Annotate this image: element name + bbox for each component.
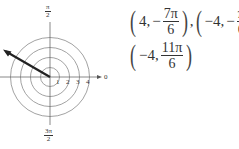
point-3: ( −4, 11π6 ) [128, 40, 194, 71]
point-1: ( 4, − 7π6 ) [128, 6, 190, 37]
answer-line-2: ( −4, 11π6 ) [128, 38, 239, 72]
ring-label-4: 4 [86, 79, 90, 86]
point-arrow [3, 50, 50, 78]
ring-label-1: 1 [56, 79, 60, 86]
angle-label-0: 0 [104, 74, 108, 81]
answer-line-1: ( 4, − 7π6 ) , ( −4, − π6 ) , [128, 4, 239, 38]
ring-label-2: 2 [66, 79, 70, 86]
arrowhead-icon [3, 50, 12, 57]
answer-text: ( 4, − 7π6 ) , ( −4, − π6 ) , ( −4, 11π6… [128, 4, 239, 72]
angle-label-pi-over-2: π2 [45, 4, 51, 19]
polar-grid [0, 0, 120, 149]
axis-arrowhead-icon [97, 75, 102, 79]
ring-label-3: 3 [76, 79, 80, 86]
angle-label-3pi-over-2: 3π2 [44, 128, 53, 143]
point-2: ( −4, − π6 ) [194, 6, 239, 37]
